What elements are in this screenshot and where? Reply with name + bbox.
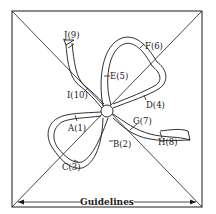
point-marker-a	[75, 115, 77, 121]
label-g: G(7)	[133, 116, 152, 126]
point-marker-j	[68, 44, 74, 48]
label-j: J(9)	[63, 30, 79, 40]
label-a: A(1)	[67, 123, 86, 133]
bow-diagram: A(1) B(2) C(3) D(4) E(5) F(6) G(7) H(8) …	[0, 0, 216, 214]
guidelines-label: Guidelines	[80, 197, 134, 207]
label-d: D(4)	[146, 100, 165, 110]
guidelines-dimension: Guidelines	[18, 197, 196, 207]
label-h: H(8)	[158, 137, 177, 147]
label-f: F(6)	[145, 41, 163, 51]
label-c: C(3)	[62, 162, 81, 172]
point-marker-f	[140, 44, 144, 48]
label-e: E(5)	[110, 71, 128, 81]
center-knot	[101, 105, 113, 117]
lower-left-loop	[48, 112, 108, 168]
label-i: I(10)	[67, 90, 88, 100]
label-b: B(2)	[113, 139, 131, 149]
